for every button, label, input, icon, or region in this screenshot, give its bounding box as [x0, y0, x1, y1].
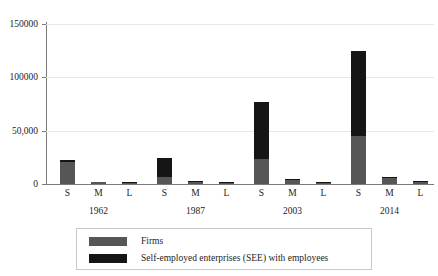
gridline: [46, 24, 434, 25]
x-axis-group-label: 1962: [74, 206, 124, 216]
y-axis-tick-label: 100000: [0, 72, 38, 82]
bar-segment-firms: [285, 180, 300, 184]
bar-2014-L: [413, 181, 428, 184]
chart-legend: Firms Self-employed enterprises (SEE) wi…: [76, 228, 372, 270]
y-axis-tick-label: 50,000: [0, 126, 38, 136]
bar-segment-firms: [413, 182, 428, 184]
x-axis-category-label: S: [155, 188, 175, 198]
bar-segment-firms: [316, 183, 331, 184]
y-axis-tick: [42, 24, 46, 25]
bar-1962-L: [122, 182, 137, 184]
bar-segment-firms: [219, 183, 234, 184]
plot-area: [46, 24, 434, 184]
legend-label-firms: Firms: [141, 237, 163, 247]
legend-item-see: Self-employed enterprises (SEE) with emp…: [77, 251, 371, 266]
x-axis-category-label: L: [120, 188, 140, 198]
bar-2003-M: [285, 179, 300, 184]
bar-2003-S: [254, 102, 269, 184]
bar-segment-firms: [91, 182, 106, 184]
x-axis-category-label: L: [314, 188, 334, 198]
bar-1987-S: [157, 158, 172, 184]
gridline: [46, 184, 434, 185]
x-axis-category-label: M: [89, 188, 109, 198]
gridline: [46, 131, 434, 132]
bar-2014-S: [351, 51, 366, 184]
bar-segment-firms: [254, 159, 269, 184]
y-axis-tick: [42, 77, 46, 78]
bar-segment-see: [351, 51, 366, 136]
y-axis-tick: [42, 184, 46, 185]
bar-1962-S: [60, 160, 75, 184]
y-axis-tick: [42, 131, 46, 132]
bar-segment-firms: [351, 136, 366, 184]
gridline: [46, 77, 434, 78]
bar-segment-see: [254, 102, 269, 159]
x-axis-category-label: M: [283, 188, 303, 198]
legend-item-firms: Firms: [77, 234, 371, 249]
legend-swatch-see: [89, 254, 127, 263]
bar-2014-M: [382, 177, 397, 184]
x-axis-category-label: M: [186, 188, 206, 198]
x-axis-group-label: 2014: [365, 206, 415, 216]
bar-1987-M: [188, 181, 203, 184]
stacked-bar-chart: 050,000100000150000 SML1962SML1987SML200…: [0, 0, 438, 276]
y-axis-tick-label: 150000: [0, 19, 38, 29]
x-axis-category-label: S: [252, 188, 272, 198]
x-axis-category-label: L: [411, 188, 431, 198]
legend-label-see: Self-employed enterprises (SEE) with emp…: [141, 254, 328, 264]
bar-segment-firms: [188, 182, 203, 184]
bar-1987-L: [219, 182, 234, 184]
x-axis-category-label: S: [58, 188, 78, 198]
bar-segment-see: [157, 158, 172, 177]
x-axis-group-label: 1987: [171, 206, 221, 216]
legend-swatch-firms: [89, 237, 127, 246]
y-axis-tick-label: 0: [0, 179, 38, 189]
bar-2003-L: [316, 182, 331, 184]
bar-segment-firms: [382, 178, 397, 184]
x-axis-category-label: S: [349, 188, 369, 198]
bar-segment-firms: [122, 183, 137, 184]
x-axis-category-label: L: [217, 188, 237, 198]
bar-segment-firms: [157, 177, 172, 184]
bar-1962-M: [91, 182, 106, 184]
x-axis-group-label: 2003: [268, 206, 318, 216]
x-axis-category-label: M: [380, 188, 400, 198]
bar-segment-firms: [60, 162, 75, 184]
